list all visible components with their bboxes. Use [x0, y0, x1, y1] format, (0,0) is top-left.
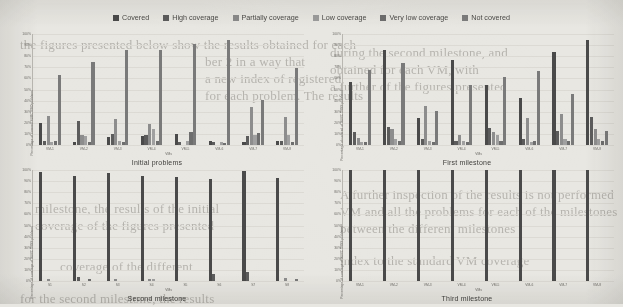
bar[interactable] — [84, 136, 87, 145]
bar[interactable] — [552, 52, 555, 145]
bar-group[interactable]: VM-5 — [169, 34, 203, 145]
bar[interactable] — [276, 141, 279, 145]
bar[interactable] — [485, 170, 488, 281]
bar[interactable] — [451, 170, 454, 281]
bar[interactable] — [383, 50, 386, 145]
bar[interactable] — [353, 132, 356, 145]
bar[interactable] — [276, 178, 279, 281]
bar-group[interactable]: VM-8 — [580, 170, 614, 281]
bar[interactable] — [586, 170, 589, 281]
bar[interactable] — [357, 138, 360, 145]
bar[interactable] — [125, 50, 128, 145]
bar[interactable] — [152, 279, 155, 281]
bar[interactable] — [485, 85, 488, 145]
bar[interactable] — [159, 50, 162, 145]
bar[interactable] — [394, 139, 397, 145]
bar[interactable] — [530, 142, 533, 145]
bar[interactable] — [401, 63, 404, 145]
bar-group[interactable]: S1 — [33, 170, 67, 281]
bar-group[interactable]: VM-2 — [377, 34, 411, 145]
legend-item[interactable]: Partially coverage — [233, 13, 299, 22]
bar[interactable] — [91, 62, 94, 145]
bar[interactable] — [421, 139, 424, 145]
bar[interactable] — [488, 128, 491, 145]
bar-group[interactable]: VM-6 — [202, 34, 236, 145]
bar[interactable] — [141, 136, 144, 145]
bar[interactable] — [291, 142, 294, 145]
bar-group[interactable]: S6 — [202, 170, 236, 281]
bar[interactable] — [519, 170, 522, 281]
bar[interactable] — [349, 170, 352, 281]
bar[interactable] — [533, 141, 536, 145]
bar[interactable] — [257, 133, 260, 145]
bar[interactable] — [220, 142, 223, 145]
bar[interactable] — [560, 114, 563, 145]
bar[interactable] — [114, 119, 117, 145]
bar-group[interactable]: VM-3 — [411, 170, 445, 281]
bar[interactable] — [469, 85, 472, 145]
bar[interactable] — [295, 68, 298, 145]
bar[interactable] — [47, 279, 50, 281]
bar-group[interactable]: S8 — [270, 170, 304, 281]
bar[interactable] — [519, 98, 522, 145]
bar[interactable] — [152, 129, 155, 145]
bar[interactable] — [73, 176, 76, 281]
bar-group[interactable]: VM-2 — [67, 34, 101, 145]
bar[interactable] — [280, 141, 283, 145]
bar[interactable] — [242, 171, 245, 281]
bar[interactable] — [398, 141, 401, 145]
bar[interactable] — [537, 71, 540, 145]
bar-group[interactable]: VM-7 — [546, 170, 580, 281]
bar-group[interactable]: S5 — [169, 170, 203, 281]
bar[interactable] — [390, 129, 393, 145]
bar-group[interactable]: VM-8 — [580, 34, 614, 145]
bar[interactable] — [43, 141, 46, 145]
bar[interactable] — [458, 135, 461, 145]
bar[interactable] — [114, 279, 117, 281]
bar[interactable] — [156, 141, 159, 145]
bar-group[interactable]: VM-1 — [33, 34, 67, 145]
bar[interactable] — [597, 139, 600, 145]
bar-group[interactable]: VM-6 — [512, 170, 546, 281]
legend-item[interactable]: Not covered — [462, 13, 510, 22]
bar[interactable] — [454, 141, 457, 145]
bar[interactable] — [189, 132, 192, 145]
bar[interactable] — [148, 124, 151, 145]
bar[interactable] — [77, 277, 80, 281]
bar-group[interactable]: VM-4 — [445, 34, 479, 145]
bar[interactable] — [435, 111, 438, 145]
bar-group[interactable]: VM-4 — [135, 34, 169, 145]
bar[interactable] — [175, 134, 178, 145]
bar-group[interactable]: VM-1 — [343, 34, 377, 145]
legend-item[interactable]: Very low coverage — [380, 13, 448, 22]
bar[interactable] — [586, 40, 589, 145]
bar-group[interactable]: S4 — [135, 170, 169, 281]
bar-group[interactable]: S7 — [236, 170, 270, 281]
bar[interactable] — [368, 70, 371, 145]
bar-group[interactable]: VM-5 — [479, 34, 513, 145]
bar[interactable] — [47, 116, 50, 145]
bar[interactable] — [227, 40, 230, 145]
bar[interactable] — [186, 141, 189, 145]
bar[interactable] — [364, 142, 367, 145]
bar[interactable] — [428, 141, 431, 145]
bar[interactable] — [88, 279, 91, 281]
bar-group[interactable]: S2 — [67, 170, 101, 281]
bar[interactable] — [107, 173, 110, 281]
bar[interactable] — [417, 170, 420, 281]
bar[interactable] — [284, 278, 287, 281]
legend-item[interactable]: Low coverage — [313, 13, 367, 22]
bar[interactable] — [284, 117, 287, 145]
bar-group[interactable]: VM-8 — [270, 34, 304, 145]
bar[interactable] — [253, 135, 256, 145]
bar[interactable] — [496, 135, 499, 145]
bar[interactable] — [383, 170, 386, 281]
bar[interactable] — [594, 129, 597, 145]
bar[interactable] — [571, 94, 574, 145]
bar[interactable] — [360, 142, 363, 145]
bar[interactable] — [590, 117, 593, 145]
bar[interactable] — [552, 170, 555, 281]
bar[interactable] — [556, 131, 559, 145]
bar[interactable] — [417, 118, 420, 145]
bar-group[interactable]: S3 — [101, 170, 135, 281]
